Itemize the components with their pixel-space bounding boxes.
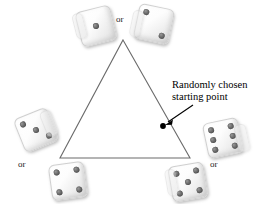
pip [185,179,192,186]
annotation-arrow-line [168,105,193,122]
pip [158,32,165,39]
annotation-line-2: starting point [172,91,248,103]
die-face-pips [49,162,87,200]
pip [56,189,63,196]
pip [92,22,99,29]
pip [193,167,200,174]
pip [208,127,215,134]
pip [212,146,219,153]
die-bottom-left [48,161,89,202]
triangle-outline [60,40,190,158]
pip [196,187,203,194]
pip [19,121,27,129]
pip [32,126,40,134]
pip [210,137,217,144]
starting-point-dot [160,123,166,129]
or-label-bottom-right: or [210,159,218,169]
or-label-top: or [116,14,124,24]
dice-triangle-figure: or or or Randomly chosen starting point [0,0,264,204]
pip [73,166,80,173]
annotation-line-1: Randomly chosen [172,79,248,91]
starting-point-annotation: Randomly chosen starting point [172,79,248,103]
pip [76,186,83,193]
pip [53,169,60,176]
or-label-bottom-left: or [18,159,26,169]
